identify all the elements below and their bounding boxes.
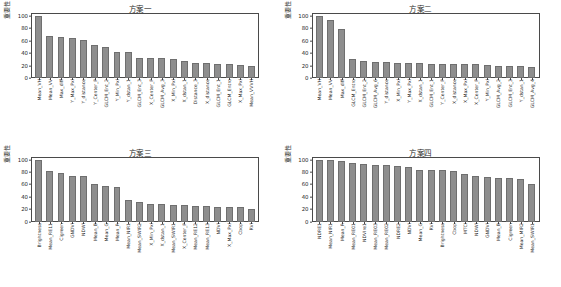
bar[interactable] <box>338 161 345 222</box>
bar-slot[interactable] <box>437 13 448 78</box>
bar-slot[interactable] <box>426 13 437 78</box>
bar-slot[interactable] <box>414 13 425 78</box>
bar[interactable] <box>327 20 334 78</box>
bar-slot[interactable] <box>459 13 470 78</box>
bar-slot[interactable] <box>336 13 347 78</box>
bar[interactable] <box>91 45 98 78</box>
bar[interactable] <box>203 206 210 221</box>
bar-slot[interactable] <box>526 157 537 222</box>
bar-slot[interactable] <box>89 157 100 222</box>
bar-slot[interactable] <box>370 157 381 222</box>
bar[interactable] <box>416 170 423 222</box>
bar-slot[interactable] <box>235 13 246 78</box>
bar[interactable] <box>327 160 334 222</box>
bar[interactable] <box>338 29 345 78</box>
bar[interactable] <box>158 58 165 78</box>
bar-slot[interactable] <box>515 13 526 78</box>
bar[interactable] <box>69 38 76 78</box>
bar-slot[interactable] <box>314 13 325 78</box>
bar-slot[interactable] <box>78 13 89 78</box>
bar[interactable] <box>114 187 121 221</box>
bar-slot[interactable] <box>134 157 145 222</box>
bar-slot[interactable] <box>111 157 122 222</box>
bar-slot[interactable] <box>179 157 190 222</box>
bar-slot[interactable] <box>201 13 212 78</box>
bar-slot[interactable] <box>246 157 257 222</box>
bar[interactable] <box>484 65 491 78</box>
bar-slot[interactable] <box>526 13 537 78</box>
bar-slot[interactable] <box>470 157 481 222</box>
bar-slot[interactable] <box>123 157 134 222</box>
bar[interactable] <box>405 63 412 78</box>
bar-slot[interactable] <box>156 13 167 78</box>
bar[interactable] <box>372 62 379 78</box>
bar[interactable] <box>91 184 98 222</box>
bar-slot[interactable] <box>504 157 515 222</box>
bar-slot[interactable] <box>493 157 504 222</box>
bar[interactable] <box>405 167 412 221</box>
bar[interactable] <box>248 66 255 78</box>
bar[interactable] <box>125 200 132 221</box>
bar-slot[interactable] <box>100 157 111 222</box>
bar[interactable] <box>170 59 177 78</box>
bar[interactable] <box>360 164 367 222</box>
bar[interactable] <box>383 165 390 221</box>
bar[interactable] <box>495 66 502 78</box>
bar-slot[interactable] <box>437 157 448 222</box>
bar[interactable] <box>495 178 502 221</box>
bar[interactable] <box>528 67 535 78</box>
bar[interactable] <box>237 65 244 78</box>
bar-slot[interactable] <box>67 157 78 222</box>
bar[interactable] <box>394 63 401 78</box>
bar-slot[interactable] <box>515 157 526 222</box>
bar[interactable] <box>125 52 132 78</box>
bar[interactable] <box>428 170 435 222</box>
bar[interactable] <box>203 63 210 78</box>
bar-slot[interactable] <box>448 157 459 222</box>
bar[interactable] <box>360 61 367 78</box>
bar-slot[interactable] <box>459 157 470 222</box>
bar-slot[interactable] <box>89 13 100 78</box>
bar-slot[interactable] <box>470 13 481 78</box>
bar[interactable] <box>316 160 323 222</box>
bar-slot[interactable] <box>145 13 156 78</box>
bar-slot[interactable] <box>347 13 358 78</box>
bar[interactable] <box>214 207 221 222</box>
bar[interactable] <box>517 66 524 78</box>
bar[interactable] <box>439 64 446 78</box>
bar[interactable] <box>517 179 524 222</box>
bar-slot[interactable] <box>179 13 190 78</box>
bar[interactable] <box>316 16 323 78</box>
bar[interactable] <box>450 64 457 78</box>
bar-slot[interactable] <box>156 157 167 222</box>
bar[interactable] <box>450 171 457 221</box>
bar-slot[interactable] <box>392 157 403 222</box>
bar[interactable] <box>349 59 356 78</box>
bar[interactable] <box>58 173 65 221</box>
bar[interactable] <box>428 64 435 78</box>
bar-slot[interactable] <box>403 13 414 78</box>
bar-slot[interactable] <box>482 13 493 78</box>
bar[interactable] <box>506 66 513 78</box>
bar[interactable] <box>35 16 42 78</box>
bar-slot[interactable] <box>246 13 257 78</box>
bar-slot[interactable] <box>358 157 369 222</box>
bar-slot[interactable] <box>358 13 369 78</box>
bar[interactable] <box>372 165 379 221</box>
bar-slot[interactable] <box>33 157 44 222</box>
bar-slot[interactable] <box>392 13 403 78</box>
bar-slot[interactable] <box>212 13 223 78</box>
bar-slot[interactable] <box>145 157 156 222</box>
bar-slot[interactable] <box>67 13 78 78</box>
bar-slot[interactable] <box>201 157 212 222</box>
bar[interactable] <box>181 205 188 222</box>
bar-slot[interactable] <box>504 13 515 78</box>
bar-slot[interactable] <box>44 13 55 78</box>
bar-slot[interactable] <box>381 157 392 222</box>
bar-slot[interactable] <box>167 13 178 78</box>
bar-slot[interactable] <box>493 13 504 78</box>
bar-slot[interactable] <box>55 157 66 222</box>
bar-slot[interactable] <box>190 13 201 78</box>
bar[interactable] <box>461 64 468 78</box>
bar[interactable] <box>80 176 87 221</box>
